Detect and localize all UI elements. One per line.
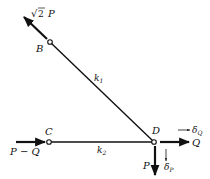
truss-diagram: B C D √ 2 P k1 k2 P − Q Q P δQ δP — [0, 0, 210, 179]
svg-text:2: 2 — [38, 9, 44, 19]
label-k2: k2 — [97, 145, 106, 156]
label-node-c: C — [45, 126, 53, 137]
label-load-d-q: Q — [192, 137, 200, 148]
member-k1 — [51, 43, 153, 141]
svg-text:P: P — [47, 8, 55, 19]
label-k1: k1 — [94, 73, 103, 84]
label-load-b: √ 2 P — [31, 8, 55, 19]
label-node-b: B — [35, 43, 43, 54]
node-c — [47, 140, 52, 145]
svg-text:√: √ — [31, 8, 38, 19]
load-arrow-b — [24, 17, 47, 39]
node-d — [152, 140, 157, 145]
label-load-c: P − Q — [9, 146, 40, 157]
label-delta-q: δQ — [192, 125, 202, 136]
node-b — [48, 40, 53, 45]
label-delta-p: δP — [164, 162, 174, 173]
label-node-d: D — [151, 125, 160, 136]
label-load-d-p: P — [142, 160, 150, 171]
